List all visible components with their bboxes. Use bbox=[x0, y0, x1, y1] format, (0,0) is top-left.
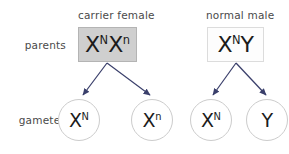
allele-superscript: N bbox=[232, 32, 241, 46]
gamete-genotype: XN bbox=[201, 111, 221, 130]
allele-superscript: n bbox=[155, 110, 161, 121]
row-label-gametes: gametes bbox=[0, 114, 66, 126]
allele-superscript: n bbox=[123, 32, 130, 46]
allele-base: X bbox=[108, 32, 123, 57]
gamete-genotype: XN bbox=[69, 111, 89, 130]
caption-normal-male: normal male bbox=[206, 9, 266, 21]
gamete-circle: XN bbox=[190, 99, 232, 141]
row-label-parents: parents bbox=[0, 39, 66, 51]
allele-base: X bbox=[85, 32, 100, 57]
gamete-circle: Xn bbox=[131, 99, 173, 141]
allele-base: Y bbox=[241, 32, 254, 57]
allele-base: X bbox=[143, 109, 156, 131]
genotype-carrier-female: XNXn bbox=[85, 34, 130, 56]
allele-base: X bbox=[69, 109, 82, 131]
gamete-circle: XN bbox=[58, 99, 100, 141]
allele-superscript: N bbox=[100, 32, 109, 46]
genotype-normal-male: XNY bbox=[217, 34, 253, 56]
gamete-formation-diagram: carrier female normal male parents gamet… bbox=[0, 0, 289, 154]
arrow-female-to-gamete-2 bbox=[107, 63, 150, 95]
parent-box-carrier-female: XNXn bbox=[78, 27, 137, 62]
gamete-circle: Y bbox=[246, 99, 288, 141]
gamete-genotype: Xn bbox=[143, 111, 162, 130]
allele-base: Y bbox=[261, 109, 272, 131]
allele-base: X bbox=[217, 32, 232, 57]
parent-box-normal-male: XNY bbox=[207, 27, 264, 62]
allele-superscript: N bbox=[214, 110, 221, 121]
arrow-male-to-gamete-2 bbox=[236, 63, 266, 95]
gamete-genotype: Y bbox=[261, 111, 272, 130]
arrow-female-to-gamete-1 bbox=[83, 63, 107, 95]
caption-carrier-female: carrier female bbox=[78, 9, 138, 21]
arrow-male-to-gamete-1 bbox=[213, 63, 236, 95]
allele-superscript: N bbox=[82, 110, 89, 121]
allele-base: X bbox=[201, 109, 214, 131]
